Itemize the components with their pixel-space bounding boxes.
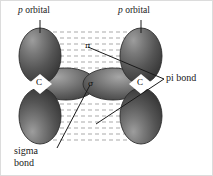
label-carbon-right: C [137,78,143,87]
label-p-orbital-right: p orbital [118,6,150,16]
p-orbital-left-rest: orbital [23,5,50,15]
label-carbon-left: C [36,78,42,87]
label-pi-bond: pi bond [166,73,196,84]
orbital-diagram-figure: p orbital p orbital pi bond sigma bond C… [0,0,213,176]
label-sigma-symbol-center: σ [88,80,93,88]
label-sigma-bond: sigma bond [14,145,60,168]
p-orbital-bottom-right [120,88,162,144]
p-orbital-right-rest: orbital [123,5,150,15]
label-p-orbital-left: p orbital [18,6,50,16]
label-pi-symbol-top: π [85,42,90,50]
sigma-bond-line-2: bond [14,157,60,169]
sigma-bond-line-1: sigma [14,145,60,157]
p-orbital-bottom-left [19,88,61,144]
